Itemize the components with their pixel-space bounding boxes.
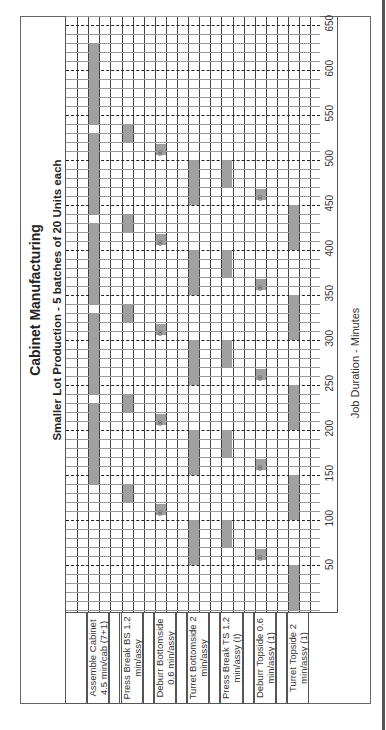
x-axis-ticks: 50100150200250300350400450500550600650	[320, 17, 338, 613]
task-bar	[189, 520, 199, 565]
major-gridline	[66, 70, 320, 71]
deburr-batch-tag: 00	[256, 375, 262, 381]
minor-gridline	[66, 133, 320, 134]
minor-gridline	[66, 79, 320, 80]
task-bar	[222, 250, 232, 277]
minor-gridline	[66, 511, 320, 512]
right-edge-bar	[382, 0, 385, 730]
deburr-batch-tag: 00	[157, 330, 163, 336]
task-bar	[289, 205, 299, 250]
task-labels: Assemble Cabinet4.5 min/cab (7+1)Press B…	[65, 613, 310, 704]
x-tick-label: 550	[324, 108, 335, 122]
task-label: Turret Bottomside 2min/assy	[187, 616, 209, 699]
task-bar	[222, 430, 232, 457]
task-label: Press Break TS 1.2min/assy (I)	[220, 617, 242, 699]
major-gridline	[66, 115, 320, 116]
task-bar	[222, 340, 232, 367]
task-label-cell: Turret Topside 2min/assy (1)	[287, 613, 309, 703]
minor-gridline	[66, 610, 320, 611]
minor-gridline	[66, 34, 320, 35]
x-tick-label: 450	[324, 198, 335, 212]
task-bar	[123, 484, 133, 502]
x-tick-label: 400	[324, 243, 335, 257]
task-bar	[89, 43, 99, 124]
deburr-batch-tag: 00	[157, 420, 163, 426]
x-tick-label: 100	[324, 513, 335, 527]
task-bar	[189, 430, 199, 475]
minor-gridline	[66, 592, 320, 593]
minor-gridline	[66, 232, 320, 233]
task-bar	[222, 520, 232, 547]
minor-gridline	[66, 124, 320, 125]
x-tick-label: 50	[324, 558, 335, 572]
task-bar	[123, 124, 133, 142]
minor-gridline	[66, 493, 320, 494]
blank-label-cell	[209, 613, 220, 703]
gantt-grid: 00000000000000000000	[65, 17, 320, 613]
task-bar	[189, 160, 199, 205]
minor-gridline	[66, 421, 320, 422]
task-bar	[89, 223, 99, 304]
task-label-cell: Deburr Bottomside0.6 min/assy	[154, 613, 176, 703]
minor-gridline	[66, 43, 320, 44]
blank-label-cell	[243, 613, 254, 703]
major-gridline	[66, 385, 320, 386]
minor-gridline	[66, 574, 320, 575]
minor-gridline	[66, 502, 320, 503]
task-bar	[289, 385, 299, 430]
task-label-cell: Turret Bottomside 2min/assy	[187, 613, 209, 703]
minor-gridline	[66, 313, 320, 314]
major-gridline	[66, 565, 320, 566]
x-tick-label: 600	[324, 63, 335, 77]
task-bar	[89, 313, 99, 394]
blank-label-cell	[109, 613, 120, 703]
minor-gridline	[66, 583, 320, 584]
task-label: Deburr Topside 0.6min/assy (1)	[254, 618, 276, 698]
deburr-batch-tag: 00	[157, 240, 163, 246]
label-row-bottom-border	[65, 703, 310, 704]
task-label: Assemble Cabinet4.5 min/cab (7+1)	[87, 619, 109, 696]
chart-subtitle-text: Smaller Lot Production - 5 batches of 20…	[51, 159, 63, 440]
deburr-batch-tag: 00	[256, 465, 262, 471]
minor-gridline	[66, 412, 320, 413]
blank-label-cell	[143, 613, 154, 703]
task-label: Press Break BS 1.2min/assy	[121, 617, 143, 700]
x-axis-label-text: Job Duration - Minutes	[349, 308, 361, 419]
task-label-cell: Press Break TS 1.2min/assy (I)	[220, 613, 242, 703]
minor-gridline	[66, 142, 320, 143]
task-bar	[123, 304, 133, 322]
deburr-batch-tag: 00	[256, 555, 262, 561]
minor-gridline	[66, 16, 320, 17]
x-tick-label: 650	[324, 18, 335, 32]
task-bar	[123, 394, 133, 412]
major-gridline	[66, 475, 320, 476]
x-tick-label: 150	[324, 468, 335, 482]
task-bar	[289, 475, 299, 520]
chart-title-text: Cabinet Manufacturing	[27, 224, 43, 376]
minor-gridline	[66, 394, 320, 395]
deburr-batch-tag: 00	[157, 150, 163, 156]
deburr-batch-tag: 00	[256, 285, 262, 291]
minor-gridline	[66, 52, 320, 53]
major-gridline	[66, 25, 320, 26]
task-label-cell: Deburr Topside 0.6min/assy (1)	[254, 613, 276, 703]
task-label-cell: Assemble Cabinet4.5 min/cab (7+1)	[87, 613, 109, 703]
minor-gridline	[66, 601, 320, 602]
task-bar	[289, 565, 299, 610]
task-bar	[289, 295, 299, 340]
minor-gridline	[66, 304, 320, 305]
blank-label-cell	[65, 613, 87, 703]
blank-label-cell	[176, 613, 187, 703]
minor-gridline	[66, 403, 320, 404]
minor-gridline	[66, 88, 320, 89]
minor-gridline	[66, 106, 320, 107]
task-label-cell: Press Break BS 1.2min/assy	[121, 613, 143, 703]
deburr-batch-tag: 00	[157, 510, 163, 516]
minor-gridline	[66, 61, 320, 62]
minor-gridline	[66, 97, 320, 98]
minor-gridline	[66, 223, 320, 224]
minor-gridline	[66, 214, 320, 215]
minor-gridline	[66, 151, 320, 152]
task-bar	[89, 403, 99, 484]
minor-gridline	[66, 484, 320, 485]
